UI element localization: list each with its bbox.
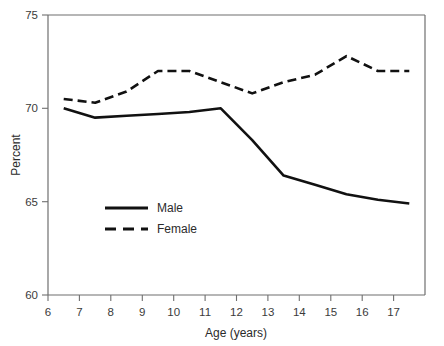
x-tick-label-7: 7	[76, 306, 82, 318]
x-tick-label-14: 14	[293, 306, 306, 318]
line-chart: 60 65 70 75 6 7 8 9 10 11 12 13 14 15	[0, 0, 444, 346]
series-line-male	[64, 108, 410, 203]
x-tick-label-16: 16	[356, 306, 369, 318]
x-tick-label-13: 13	[262, 306, 275, 318]
chart-figure: 60 65 70 75 6 7 8 9 10 11 12 13 14 15	[0, 0, 444, 346]
x-tick-label-12: 12	[230, 306, 243, 318]
x-axis-title: Age (years)	[205, 326, 267, 340]
y-tick-marks	[42, 15, 48, 295]
plot-axes	[48, 15, 425, 295]
y-tick-label-60: 60	[25, 289, 38, 301]
y-tick-label-70: 70	[25, 102, 38, 114]
x-tick-label-8: 8	[108, 306, 114, 318]
y-tick-label-65: 65	[25, 196, 38, 208]
x-tick-label-17: 17	[387, 306, 400, 318]
legend-label-female: Female	[157, 222, 197, 236]
x-tick-label-6: 6	[45, 306, 51, 318]
legend-label-male: Male	[157, 201, 183, 215]
y-axis-title: Percent	[9, 134, 23, 176]
x-tick-marks	[48, 295, 394, 301]
x-tick-label-15: 15	[324, 306, 337, 318]
y-tick-label-75: 75	[25, 9, 38, 21]
x-tick-label-11: 11	[199, 306, 211, 318]
x-tick-label-9: 9	[139, 306, 145, 318]
chart-legend: Male Female	[105, 201, 197, 236]
series-line-female	[64, 56, 410, 103]
x-tick-label-10: 10	[167, 306, 180, 318]
